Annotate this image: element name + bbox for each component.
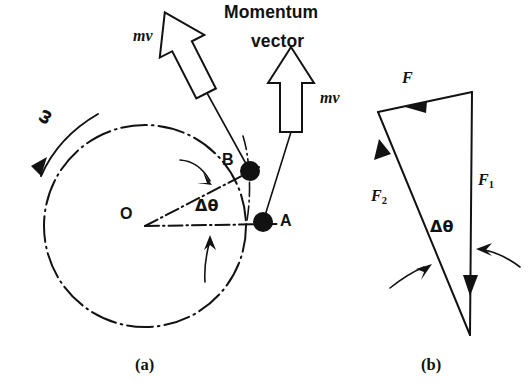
resultant-force-arrowhead — [405, 101, 427, 113]
force2-line — [378, 112, 470, 335]
momentum-label-b: mv — [133, 28, 153, 44]
caption-a: (a) — [135, 357, 154, 374]
angle-pointer-right-arrowhead — [476, 243, 492, 256]
resultant-force-label-text: F — [402, 69, 413, 86]
momentum-vector-title-line2: vector — [251, 33, 304, 51]
force1-label-sub: 1 — [489, 179, 494, 190]
momentum-a-tail — [263, 132, 291, 222]
momentum-label-a: mv — [320, 90, 340, 106]
figure-vector-canvas — [0, 0, 528, 391]
angle-pointer-lower-arrowhead — [204, 235, 216, 250]
momentum-a-block-arrow — [268, 47, 314, 132]
caption-b: (b) — [421, 357, 441, 374]
force1-label: F1 — [478, 172, 494, 190]
resultant-force-label: F — [402, 70, 413, 86]
force1-line — [470, 92, 472, 335]
momentum-b-block-arrow — [143, 1, 229, 105]
angle-label-panel-b: Δθ — [430, 219, 453, 235]
angle-label-panel-a: Δθ — [195, 198, 218, 214]
angle-pointer-left-arc — [390, 267, 424, 288]
angle-pointer-right-arc — [484, 250, 520, 267]
force2-label-sub: 2 — [382, 195, 387, 206]
momentum-vector-title-line1: Momentum — [224, 4, 318, 22]
angle-pointer-lower-arc — [205, 244, 209, 282]
momentum-b-arrow-group — [143, 1, 229, 105]
orbit-arc-near-points — [243, 136, 250, 226]
center-label-o: O — [120, 206, 132, 222]
point-label-a: A — [280, 213, 292, 229]
force2-label: F2 — [371, 188, 387, 206]
point-label-b: B — [222, 152, 234, 168]
figure-container: Momentum vector mv mv ω O B A Δθ F F1 F2… — [0, 0, 528, 391]
force1-label-text: F — [478, 171, 489, 188]
force2-label-text: F — [371, 187, 382, 204]
force2-arrowhead — [374, 139, 391, 160]
force1-arrowhead — [463, 275, 478, 296]
